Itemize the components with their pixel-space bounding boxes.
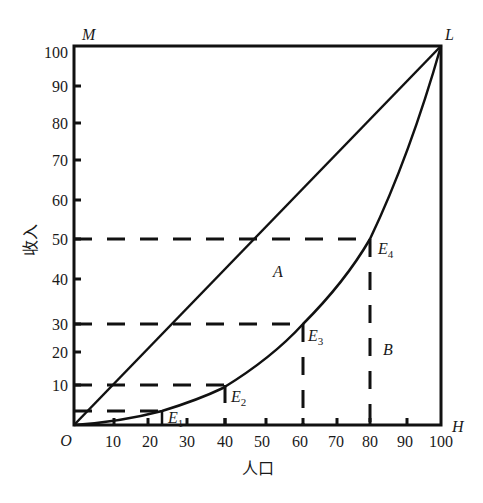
- x-tick-labels: 10 20 30 40 50 60 70 80 90 100: [105, 433, 453, 450]
- svg-text:70: 70: [328, 433, 344, 450]
- y-axis-title: 收入: [21, 224, 40, 256]
- svg-text:80: 80: [52, 115, 68, 132]
- svg-text:80: 80: [362, 433, 378, 450]
- svg-text:50: 50: [254, 433, 270, 450]
- svg-text:40: 40: [217, 433, 233, 450]
- point-e3-label: E3: [307, 327, 324, 347]
- region-label-b: B: [383, 341, 393, 358]
- projection-lines: [74, 239, 370, 425]
- svg-text:90: 90: [52, 78, 68, 95]
- equality-line: [74, 46, 441, 425]
- svg-text:20: 20: [142, 433, 158, 450]
- x-axis-title: 人口: [242, 459, 274, 478]
- corner-label-h: H: [451, 418, 465, 435]
- point-e4-label: E4: [377, 240, 394, 260]
- svg-text:10: 10: [52, 377, 68, 394]
- svg-text:30: 30: [52, 316, 68, 333]
- svg-text:90: 90: [397, 433, 413, 450]
- origin-label: O: [60, 432, 72, 449]
- svg-text:60: 60: [52, 192, 68, 209]
- svg-text:100: 100: [44, 44, 68, 61]
- y-tick-labels: 10 20 30 40 50 60 70 80 90 100: [44, 44, 68, 394]
- point-e2-label: E2: [230, 388, 246, 408]
- region-label-a: A: [272, 263, 283, 280]
- lorenz-curve-chart: 10 20 30 40 50 60 70 80 90 100 10 20 30 …: [0, 0, 483, 503]
- corner-label-l: L: [444, 26, 454, 43]
- svg-text:50: 50: [52, 231, 68, 248]
- svg-text:20: 20: [52, 344, 68, 361]
- corner-label-m: M: [81, 26, 97, 43]
- svg-text:70: 70: [52, 152, 68, 169]
- svg-text:40: 40: [52, 271, 68, 288]
- svg-text:10: 10: [105, 433, 121, 450]
- svg-text:60: 60: [292, 433, 308, 450]
- svg-text:100: 100: [429, 433, 453, 450]
- svg-text:30: 30: [179, 433, 195, 450]
